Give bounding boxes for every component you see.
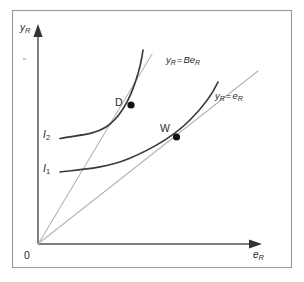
origin-label: 0 [24,250,30,261]
point-D-label: D [115,97,123,108]
point-W-dot [173,133,180,140]
curve-label-I1-sub: 1 [46,167,50,176]
ray-fortyfive-equation-label: yR=eR [215,91,243,102]
curve-label-I2-sub: 2 [46,133,50,142]
y-axis-label-sub: R [25,26,30,35]
point-D-dot [127,101,134,108]
figure-container: yR eR 0 I2 I1 D W yR=BeR yR=eR [0,0,304,282]
figure-frame [13,11,292,268]
curve-label-I2: I2 [43,129,50,141]
ray-steep-rhs-sub: R [195,59,200,66]
y-axis-arrowhead [33,24,42,37]
ray-fortyfive-rhs-sub: R [238,95,243,102]
curve-lower-I1 [60,82,218,172]
x-axis-arrowhead [249,239,262,248]
x-axis-label-sub: R [259,253,264,262]
x-axis-label: eR [253,250,264,261]
scan-speck [23,58,26,60]
curve-label-I1: I1 [43,163,50,175]
curve-upper-I2 [60,50,143,139]
point-W-label: W [160,123,170,134]
y-axis-label: yR [20,23,30,34]
ray-steep-equation-label: yR=BeR [166,55,200,66]
